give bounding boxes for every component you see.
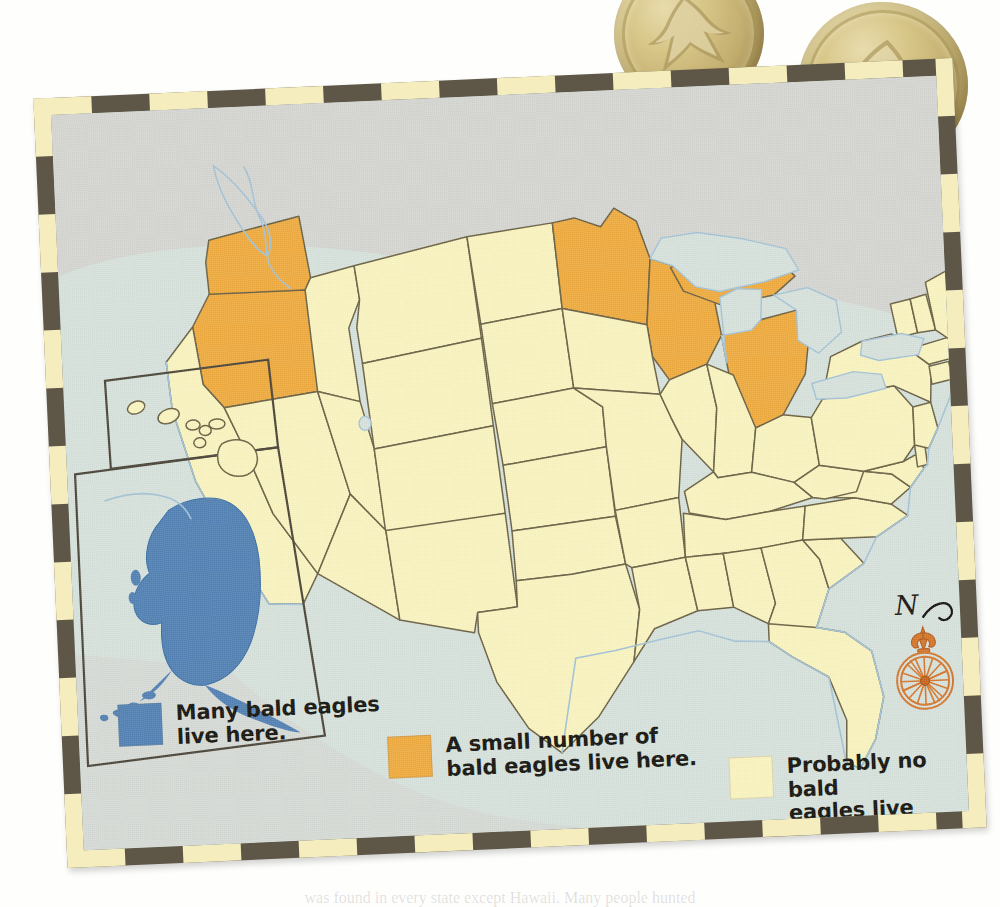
frame-checker xyxy=(961,637,981,696)
state-north-dakota xyxy=(466,223,562,325)
frame-checker xyxy=(414,833,473,853)
frame-checker xyxy=(646,823,705,843)
frame-checker xyxy=(951,406,971,465)
frame-checker xyxy=(530,828,589,848)
great-salt-lake xyxy=(359,416,372,431)
frame-checker xyxy=(941,174,961,233)
legend-swatch-many xyxy=(117,703,163,747)
map-card: .st { stroke:#6b6245; stroke-width:1.5; … xyxy=(33,58,986,868)
page-root: .st { stroke:#6b6245; stroke-width:1.5; … xyxy=(0,0,1000,907)
legend-swatch-none xyxy=(728,756,774,800)
page-bottom-caption: was found in every state except Hawaii. … xyxy=(0,889,1000,907)
legend-swatch-small xyxy=(387,735,433,779)
frame-checker xyxy=(962,810,987,828)
map-decorative-frame: .st { stroke:#6b6245; stroke-width:1.5; … xyxy=(33,58,986,868)
state-florida xyxy=(768,619,886,772)
map-canvas[interactable]: .st { stroke:#6b6245; stroke-width:1.5; … xyxy=(51,76,969,851)
state-connecticut xyxy=(929,361,952,384)
compass-north-label: N xyxy=(894,589,919,621)
frame-checker xyxy=(762,818,821,838)
state-arkansas xyxy=(615,497,686,568)
state-south-dakota xyxy=(480,308,574,404)
frame-checker xyxy=(956,521,976,580)
state-oregon xyxy=(191,289,326,409)
frame-checker xyxy=(878,812,937,832)
compass-rose-icon xyxy=(878,591,969,715)
frame-checker xyxy=(946,290,966,349)
frame-checker xyxy=(183,843,242,863)
frame-checker xyxy=(935,58,955,117)
state-alaska xyxy=(129,496,265,688)
state-rhode-island xyxy=(949,359,960,375)
frame-checker xyxy=(966,753,986,812)
legend-label-many: Many bald eagles live here. xyxy=(175,693,381,749)
frame-checker xyxy=(299,838,358,858)
state-new-jersey xyxy=(913,402,939,449)
frame-checker xyxy=(33,98,53,157)
compass-rose: N xyxy=(878,591,969,715)
